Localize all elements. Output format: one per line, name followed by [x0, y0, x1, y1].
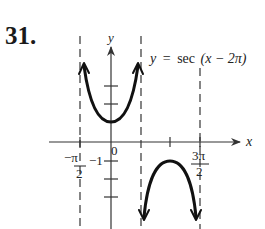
origin-label: 0 [111, 143, 118, 158]
three-pi-over-2-numerator: 3π [192, 148, 206, 163]
secant-graph: y x y = sec (x − 2π) 0 −1 −π 2 3π 2 [0, 0, 265, 229]
neg-pi-over-2-numerator: −π [64, 150, 78, 165]
equation-label: y = sec (x − 2π) [148, 51, 247, 67]
x-axis-label: x [245, 134, 253, 149]
neg-one-label: −1 [89, 153, 103, 168]
three-pi-over-2-denominator: 2 [196, 164, 203, 179]
downward-branch [144, 161, 196, 217]
neg-pi-over-2-denominator: 2 [76, 166, 83, 181]
y-axis-label: y [106, 30, 114, 45]
